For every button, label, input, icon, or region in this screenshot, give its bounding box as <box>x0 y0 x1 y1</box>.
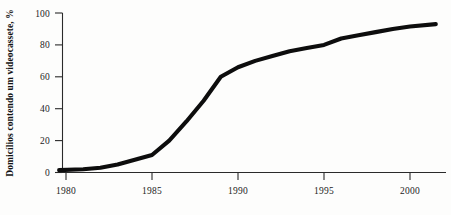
x-tick-label-2000: 2000 <box>400 186 420 196</box>
y-tick-label-60: 60 <box>40 72 50 82</box>
x-tick-label-1985: 1985 <box>142 186 162 196</box>
line-chart: 100 80 60 40 20 0 1980 1985 1990 1995 20… <box>0 0 451 215</box>
y-tick-label-80: 80 <box>40 40 50 50</box>
y-axis-title: Domicílios contendo um videocassete, % <box>5 9 15 177</box>
x-tick-label-1980: 1980 <box>56 186 76 196</box>
chart-container: 100 80 60 40 20 0 1980 1985 1990 1995 20… <box>0 0 451 215</box>
y-tick-label-0: 0 <box>45 168 50 178</box>
y-tick-label-20: 20 <box>40 136 50 146</box>
y-tick-label-40: 40 <box>40 104 50 114</box>
x-tick-label-1995: 1995 <box>314 186 334 196</box>
y-tick-label-100: 100 <box>35 9 50 19</box>
x-tick-label-1990: 1990 <box>228 186 248 196</box>
